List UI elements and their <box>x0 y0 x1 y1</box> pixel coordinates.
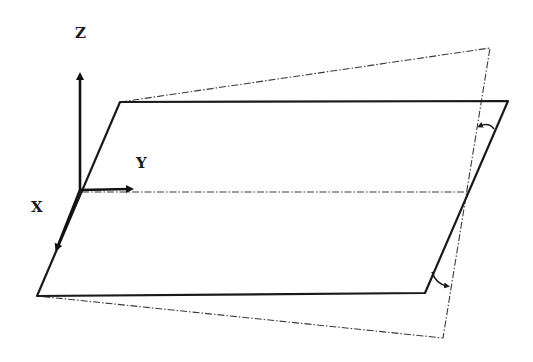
x-axis <box>57 190 80 248</box>
angle-arrow-top <box>480 125 494 129</box>
z-axis-label: Z <box>75 24 86 42</box>
diagram-canvas: Z Y X <box>0 0 533 362</box>
y-axis-label: Y <box>135 154 147 172</box>
y-axis <box>80 189 130 190</box>
reference-plane <box>37 101 508 296</box>
x-axis-label: X <box>31 198 43 216</box>
